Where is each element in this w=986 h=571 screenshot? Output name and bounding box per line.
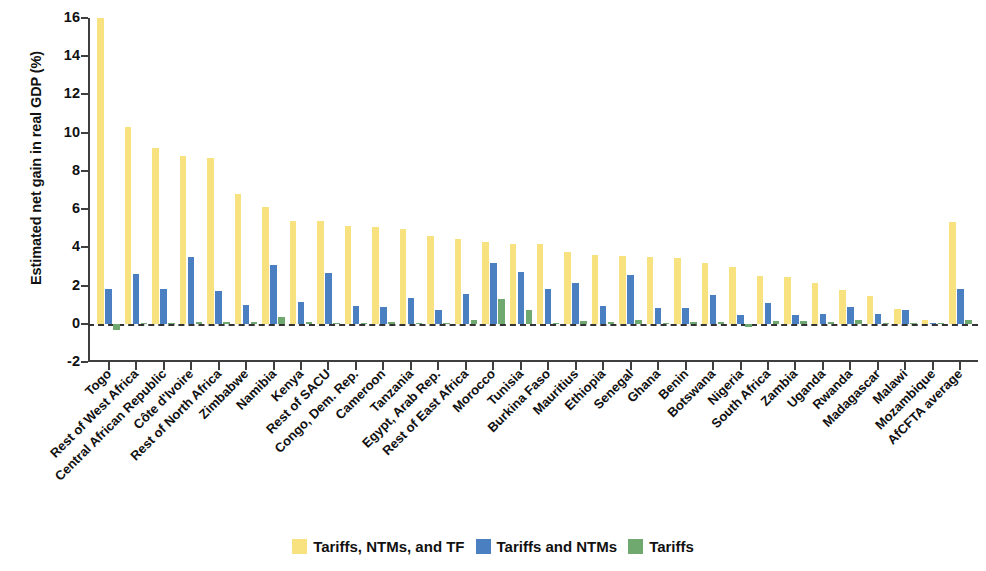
y-axis-tick-label: 2	[52, 277, 80, 293]
bar-1	[737, 315, 744, 324]
legend-swatch-icon	[628, 539, 643, 554]
bar-1	[572, 283, 579, 324]
bar-2	[938, 323, 945, 324]
bar-0	[97, 18, 104, 324]
bar-2	[580, 321, 587, 324]
bar-1	[133, 274, 140, 324]
bar-0	[949, 222, 956, 323]
bar-1	[957, 289, 964, 323]
bar-2	[168, 323, 175, 324]
y-axis-tick-label: -2	[52, 353, 80, 369]
bar-1	[847, 307, 854, 324]
bar-0	[839, 290, 846, 323]
y-axis-tick-label: 16	[52, 9, 80, 25]
y-axis-tick-label: 10	[52, 124, 80, 140]
bar-1	[298, 302, 305, 324]
plot-area: -20246810121416	[88, 18, 978, 362]
y-axis-tick-mark	[81, 93, 88, 95]
y-axis-tick-label: 8	[52, 162, 80, 178]
bar-0	[647, 257, 654, 324]
bar-1	[463, 294, 470, 324]
bar-2	[416, 323, 423, 324]
bar-2	[113, 324, 120, 331]
bar-0	[867, 296, 874, 324]
bar-2	[333, 323, 340, 324]
bar-1	[243, 305, 250, 324]
legend-swatch-icon	[476, 539, 491, 554]
bar-2	[196, 322, 203, 324]
bar-0	[235, 194, 242, 324]
legend-label: Tariffs, NTMs, and TF	[313, 538, 464, 555]
bar-0	[592, 255, 599, 324]
y-axis-tick-mark	[81, 361, 88, 363]
x-axis-line	[88, 360, 978, 362]
bar-2	[306, 322, 313, 324]
bar-2	[883, 323, 890, 324]
legend-item: Tariffs and NTMs	[476, 538, 618, 555]
bar-2	[553, 323, 560, 324]
x-axis-labels: TogoRest of West AfricaCentral African R…	[88, 364, 978, 514]
bar-0	[400, 229, 407, 324]
y-axis-tick-mark	[81, 285, 88, 287]
bar-1	[435, 310, 442, 323]
bar-0	[510, 244, 517, 324]
legend-item: Tariffs	[628, 538, 694, 555]
bar-1	[600, 306, 607, 324]
bar-1	[710, 295, 717, 324]
bar-2	[773, 321, 780, 324]
bar-1	[682, 308, 689, 324]
bar-2	[828, 322, 835, 324]
bar-1	[408, 298, 415, 324]
bar-2	[635, 320, 642, 324]
bar-1	[325, 273, 332, 324]
bar-2	[855, 320, 862, 324]
bar-0	[619, 256, 626, 324]
bar-1	[518, 272, 525, 324]
bar-1	[545, 289, 552, 323]
bar-0	[729, 267, 736, 323]
bar-2	[223, 322, 230, 324]
bar-1	[105, 289, 112, 323]
bar-1	[160, 289, 167, 323]
bar-1	[655, 308, 662, 324]
bar-2	[141, 323, 148, 324]
bar-0	[812, 283, 819, 324]
bar-0	[317, 221, 324, 324]
bar-0	[922, 320, 929, 324]
y-axis-tick-label: 4	[52, 238, 80, 254]
legend-label: Tariffs	[649, 538, 694, 555]
bar-1	[765, 303, 772, 324]
bar-2	[471, 320, 478, 324]
bar-1	[820, 314, 827, 324]
bar-2	[965, 320, 972, 324]
y-axis-tick-label: 6	[52, 200, 80, 216]
bar-1	[627, 275, 634, 324]
bar-0	[372, 227, 379, 324]
bar-0	[757, 276, 764, 324]
bar-0	[537, 244, 544, 324]
bar-1	[875, 314, 882, 324]
bar-0	[894, 309, 901, 323]
bar-1	[188, 257, 195, 324]
bar-1	[930, 323, 937, 324]
bar-0	[564, 252, 571, 324]
legend-swatch-icon	[292, 539, 307, 554]
bar-0	[290, 221, 297, 324]
bar-0	[125, 127, 132, 324]
bar-1	[215, 291, 222, 323]
y-axis-tick-mark	[81, 55, 88, 57]
bar-0	[207, 158, 214, 324]
bar-2	[498, 299, 505, 324]
y-axis-line	[88, 18, 90, 362]
y-axis-tick-label: 12	[52, 85, 80, 101]
chart-figure: Estimated net gain in real GDP (%) -2024…	[0, 0, 986, 571]
legend-label: Tariffs and NTMs	[497, 538, 618, 555]
bar-2	[443, 323, 450, 324]
bar-0	[455, 239, 462, 324]
bar-2	[718, 322, 725, 324]
bar-0	[482, 242, 489, 324]
bar-1	[792, 315, 799, 324]
bar-2	[745, 324, 752, 327]
bar-2	[800, 321, 807, 324]
bar-2	[910, 323, 917, 324]
